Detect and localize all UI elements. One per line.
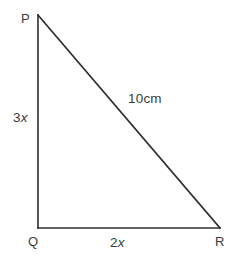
- side-label-pr: 10cm: [128, 92, 162, 106]
- vertex-label-q: Q: [28, 235, 38, 249]
- vertex-label-r: R: [215, 235, 225, 249]
- side-label-pq-coefficient: 3: [13, 110, 21, 125]
- triangle-shape: [0, 0, 240, 264]
- side-label-pq-variable: x: [21, 110, 28, 125]
- side-label-pr-measure: 10cm: [128, 91, 162, 106]
- side-label-qr-variable: x: [118, 235, 125, 250]
- side-label-qr-coefficient: 2: [110, 235, 118, 250]
- side-PR-line: [38, 15, 220, 228]
- triangle-diagram: P Q R 3x 2x 10cm: [0, 0, 240, 264]
- side-label-pq: 3x: [13, 111, 28, 125]
- side-label-qr: 2x: [110, 236, 125, 250]
- vertex-label-p: P: [21, 12, 30, 26]
